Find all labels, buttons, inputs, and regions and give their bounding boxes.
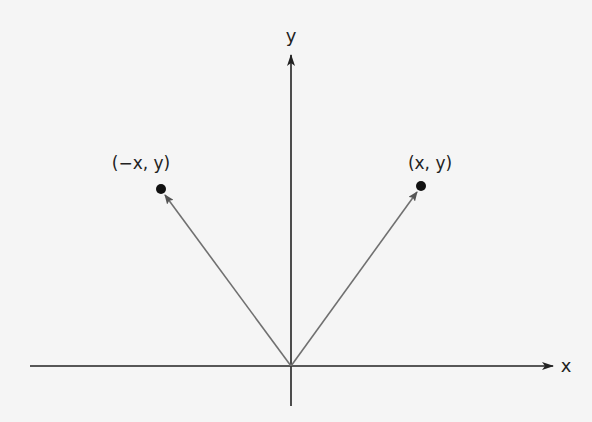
point-label-neg-x-y: (−x, y) — [112, 153, 170, 173]
vector-neg-x — [165, 195, 291, 366]
point-x-y — [416, 181, 426, 191]
point-neg-x-y — [156, 184, 166, 194]
vector-pos-x — [291, 192, 417, 366]
coordinate-diagram: y x (−x, y) (x, y) — [0, 0, 592, 422]
y-axis-label: y — [286, 25, 297, 46]
diagram-canvas: y x (−x, y) (x, y) — [0, 0, 592, 422]
x-axis-label: x — [561, 355, 572, 376]
point-label-x-y: (x, y) — [408, 153, 452, 173]
